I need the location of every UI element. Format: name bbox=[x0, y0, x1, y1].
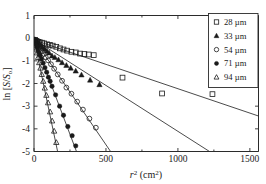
y-tick-label: 0 bbox=[25, 33, 30, 43]
marker-filled-circle bbox=[46, 75, 50, 79]
series-0 bbox=[33, 38, 215, 97]
data-markers bbox=[32, 37, 215, 148]
y-tick-labels: 10-1-2-3-4-5 bbox=[22, 11, 30, 157]
marker-open-square bbox=[120, 75, 125, 80]
marker-filled-circle bbox=[53, 93, 57, 97]
svg-text:r2 (cm2): r2 (cm2) bbox=[130, 169, 162, 181]
x-tick-label: 1500 bbox=[240, 154, 259, 164]
fit-line-1 bbox=[35, 40, 212, 153]
marker-filled-triangle bbox=[87, 77, 92, 82]
y-tick-label: 1 bbox=[25, 11, 30, 21]
marker-open-triangle bbox=[49, 118, 54, 123]
legend-item-label: 71 µm bbox=[224, 58, 247, 68]
marker-filled-triangle bbox=[64, 63, 69, 68]
legend-item-label: 33 µm bbox=[224, 31, 247, 41]
marker-open-triangle bbox=[52, 128, 57, 133]
y-tick-label: -2 bbox=[22, 79, 30, 89]
marker-filled-circle bbox=[50, 84, 54, 88]
legend-item-label: 54 µm bbox=[224, 45, 247, 55]
marker-filled-circle bbox=[214, 61, 218, 65]
x-tick-labels: 050010001500 bbox=[32, 154, 260, 164]
y-tick-label: -3 bbox=[22, 101, 30, 111]
marker-filled-circle bbox=[74, 144, 78, 148]
y-tick-label: -5 bbox=[22, 147, 30, 157]
x-tick-label: 500 bbox=[99, 154, 114, 164]
marker-open-square bbox=[210, 92, 215, 97]
marker-filled-triangle bbox=[73, 68, 78, 73]
y-tick-label: -1 bbox=[22, 56, 30, 66]
marker-filled-triangle bbox=[68, 65, 73, 70]
legend-item-label: 94 µm bbox=[224, 72, 247, 82]
marker-open-circle bbox=[75, 99, 80, 104]
scatter-plot: 050010001500 10-1-2-3-4-5 r2 (cm2) ln [S… bbox=[0, 0, 266, 184]
marker-open-circle bbox=[64, 85, 69, 90]
marker-filled-circle bbox=[70, 133, 74, 137]
svg-text:ln [S/So]: ln [S/So] bbox=[1, 67, 14, 100]
legend: 28 µm33 µm54 µm71 µm94 µm bbox=[209, 14, 259, 88]
x-tick-label: 0 bbox=[32, 154, 37, 164]
legend-item-label: 28 µm bbox=[224, 17, 247, 27]
figure-container: 050010001500 10-1-2-3-4-5 r2 (cm2) ln [S… bbox=[0, 0, 266, 184]
marker-filled-circle bbox=[61, 113, 65, 117]
marker-filled-triangle bbox=[79, 72, 84, 77]
marker-open-triangle bbox=[47, 109, 52, 114]
x-axis-title: r2 (cm2) bbox=[130, 169, 162, 181]
y-tick-label: -4 bbox=[22, 124, 30, 134]
x-tick-label: 1000 bbox=[168, 154, 187, 164]
marker-filled-circle bbox=[48, 79, 52, 83]
marker-filled-circle bbox=[57, 104, 61, 108]
marker-filled-circle bbox=[44, 70, 48, 74]
marker-filled-circle bbox=[66, 124, 70, 128]
y-axis-title: ln [S/So] bbox=[1, 67, 14, 100]
marker-open-square bbox=[91, 53, 96, 58]
marker-filled-circle bbox=[43, 65, 47, 69]
marker-open-square bbox=[160, 91, 165, 96]
